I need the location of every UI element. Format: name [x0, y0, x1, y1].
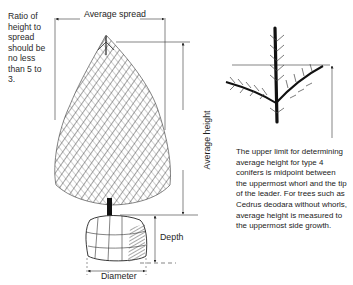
average-spread-label: Average spread — [84, 9, 146, 19]
average-height-label: Average height — [202, 110, 212, 169]
whorl-detail — [226, 28, 332, 138]
ratio-note: Ratio of height to spread should be no l… — [8, 11, 46, 85]
conifer-tree-crown — [55, 35, 171, 205]
tree-trunk — [107, 198, 112, 218]
depth-label: Depth — [160, 232, 183, 242]
diagram-canvas — [0, 0, 353, 285]
whorl-note: The upper limit for determining average … — [236, 147, 348, 232]
diameter-label: Diameter — [101, 271, 137, 281]
root-ball — [86, 216, 147, 263]
